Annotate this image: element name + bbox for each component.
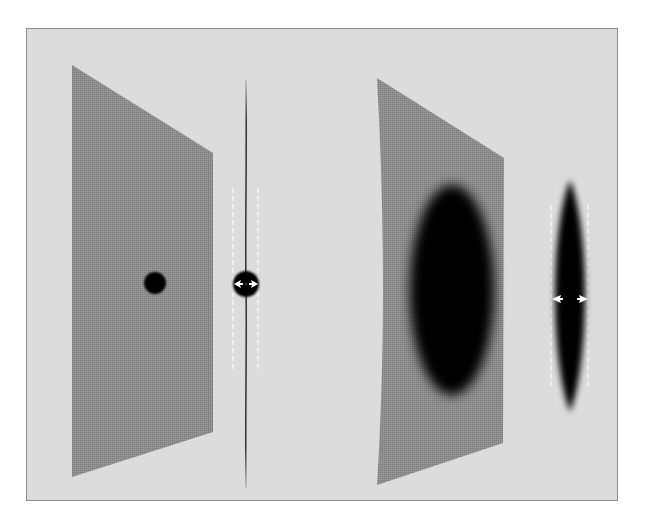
figure-canvas — [0, 0, 646, 529]
center-point — [245, 283, 248, 286]
large-defect-ellipse — [410, 185, 494, 395]
panel-large-defect — [377, 78, 588, 495]
figure-illustration — [0, 0, 646, 529]
side-view-left — [233, 80, 259, 488]
small-defect-dot — [144, 272, 166, 294]
panel-small-defect — [72, 65, 259, 488]
side-view-right — [551, 85, 588, 495]
sheet-left — [72, 65, 213, 477]
